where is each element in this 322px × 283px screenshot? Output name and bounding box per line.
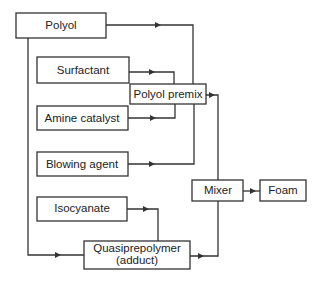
arrow-head bbox=[55, 252, 61, 258]
arrow-head bbox=[149, 69, 155, 75]
arrow-head bbox=[209, 92, 215, 98]
node-label: Foam bbox=[268, 184, 297, 196]
node-label: Polyol bbox=[45, 19, 76, 31]
node-mixer: Mixer bbox=[192, 180, 243, 201]
arrow-head bbox=[198, 253, 204, 259]
node-foam: Foam bbox=[260, 180, 306, 201]
node-label: Surfactant bbox=[57, 64, 110, 76]
edge-blowing-to-premix bbox=[128, 104, 194, 164]
node-amine-catalyst: Amine catalyst bbox=[37, 106, 128, 130]
node-label: Mixer bbox=[204, 184, 232, 196]
edge-quasiprepolymer-to-mixer bbox=[190, 201, 218, 256]
node-surfactant: Surfactant bbox=[37, 57, 129, 83]
node-blowing-agent: Blowing agent bbox=[37, 152, 128, 176]
node-label: Blowing agent bbox=[46, 158, 119, 170]
node-label-line2: (adduct) bbox=[116, 254, 158, 266]
arrow-head bbox=[143, 206, 149, 212]
edge-premix-to-mixer bbox=[206, 95, 218, 180]
node-isocyanate: Isocyanate bbox=[37, 197, 127, 221]
flow-diagram: Polyol Surfactant Amine catalyst Polyol … bbox=[0, 0, 322, 283]
edge-isocyanate-to-quasiprepolymer bbox=[127, 209, 158, 241]
node-label: Polyol premix bbox=[133, 88, 202, 100]
node-polyol-premix: Polyol premix bbox=[130, 84, 206, 104]
arrow-head bbox=[250, 188, 256, 194]
node-label: Amine catalyst bbox=[45, 112, 121, 124]
arrow-head bbox=[149, 161, 155, 167]
arrow-head bbox=[150, 115, 156, 121]
arrow-head bbox=[155, 22, 161, 28]
node-polyol: Polyol bbox=[16, 13, 106, 38]
edge-surfactant-to-premix bbox=[129, 72, 174, 84]
node-label: Isocyanate bbox=[54, 202, 110, 214]
node-label-line1: Quasiprepolymer bbox=[93, 242, 181, 254]
node-quasiprepolymer: Quasiprepolymer (adduct) bbox=[84, 241, 190, 269]
